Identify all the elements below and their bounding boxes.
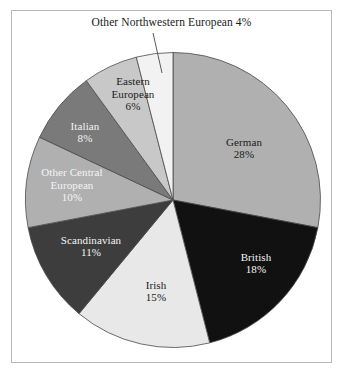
callout-label-other-northwestern-european: Other Northwestern European 4% <box>92 16 252 28</box>
pie-slice-german <box>173 53 321 228</box>
pie-chart: Other Northwestern European 4% German 28… <box>12 11 331 362</box>
pie-slice-group <box>25 53 320 348</box>
pie-svg <box>12 11 333 364</box>
chart-frame: Other Northwestern European 4% German 28… <box>11 10 332 363</box>
